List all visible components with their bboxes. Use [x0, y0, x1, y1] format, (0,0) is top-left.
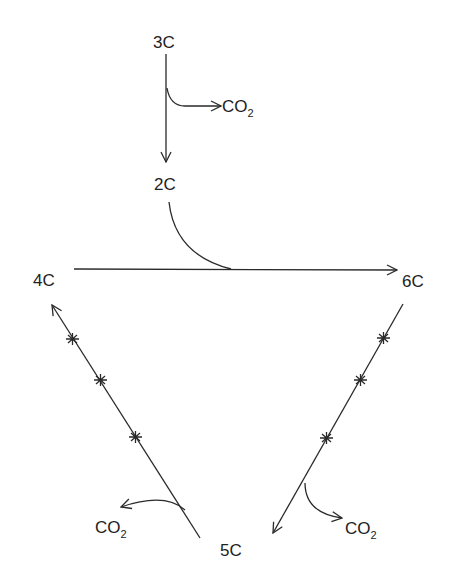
step-marker-right-1 [377, 332, 390, 344]
node-4c: 4C [33, 271, 55, 290]
arrow-co2-release-top [167, 88, 221, 106]
node-3c: 3C [153, 33, 175, 52]
co2-label-top: CO2 [222, 97, 254, 119]
arrow-co2-release-left [121, 500, 185, 510]
step-marker-left-1 [66, 333, 79, 345]
step-marker-left-3 [129, 431, 142, 443]
step-marker-left-2 [94, 374, 107, 386]
curve-2c-join [169, 202, 231, 269]
step-marker-right-3 [320, 432, 333, 444]
carbon-cycle-diagram: 3C CO2 2C 4C 6C CO2 CO2 5C [0, 0, 452, 580]
node-5c: 5C [220, 541, 242, 560]
arrow-co2-release-right [305, 483, 342, 518]
arrow-4c-to-6c [74, 269, 397, 270]
node-6c: 6C [402, 272, 424, 291]
co2-label-right: CO2 [345, 519, 377, 541]
co2-label-left: CO2 [95, 518, 127, 540]
node-2c: 2C [154, 175, 176, 194]
step-marker-right-2 [354, 374, 367, 386]
